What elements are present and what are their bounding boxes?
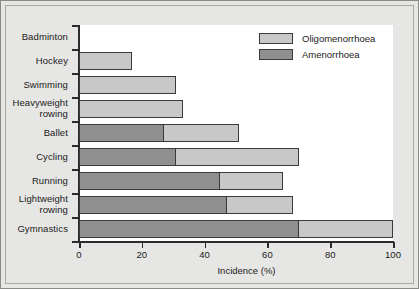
bar-segment-amenorrhoea bbox=[79, 148, 176, 166]
y-axis-tick bbox=[72, 145, 79, 147]
y-axis-label: Lightweightrowing bbox=[0, 194, 68, 215]
x-axis-tick-label: 100 bbox=[385, 249, 401, 260]
y-axis-label-line: Lightweight bbox=[0, 194, 68, 205]
bar-segment-oligomenorrhoea bbox=[298, 220, 393, 238]
legend-item-oligomenorrhoea: Oligomenorrhoea bbox=[259, 31, 375, 45]
legend-label-amenorrhoea: Amenorrhoea bbox=[302, 49, 360, 60]
bar-stack bbox=[79, 148, 299, 166]
bar-segment-amenorrhoea bbox=[79, 220, 299, 238]
chart-legend: Oligomenorrhoea Amenorrhoea bbox=[259, 31, 375, 63]
x-axis-tick-label: 20 bbox=[137, 249, 148, 260]
bar-stack bbox=[79, 124, 239, 142]
y-axis-label-line: Ballet bbox=[0, 128, 68, 139]
y-axis-label-line: Swimming bbox=[0, 80, 68, 91]
x-axis-tick-label: 40 bbox=[199, 249, 210, 260]
bar-stack bbox=[79, 172, 283, 190]
x-axis-tick bbox=[79, 242, 81, 248]
bar-stack bbox=[79, 52, 132, 70]
legend-swatch-oligomenorrhoea bbox=[259, 33, 293, 44]
bar-segment-amenorrhoea bbox=[79, 172, 220, 190]
y-axis-label-line: rowing bbox=[0, 205, 68, 216]
bar-segment-amenorrhoea bbox=[79, 196, 227, 214]
y-axis-tick bbox=[72, 25, 79, 27]
y-axis-label: Ballet bbox=[0, 128, 68, 139]
bar-segment-oligomenorrhoea bbox=[79, 100, 183, 118]
y-axis-label-line: Gymnastics bbox=[0, 224, 68, 235]
y-axis-label: Hockey bbox=[0, 56, 68, 67]
y-axis-label: Heavyweightrowing bbox=[0, 98, 68, 119]
x-axis-tick-label: 0 bbox=[76, 249, 81, 260]
y-axis-tick bbox=[72, 97, 79, 99]
y-axis-tick bbox=[72, 49, 79, 51]
y-axis-label: Running bbox=[0, 176, 68, 187]
y-axis-label-line: Heavyweight bbox=[0, 98, 68, 109]
legend-label-oligomenorrhoea: Oligomenorrhoea bbox=[302, 33, 375, 44]
y-axis-label-line: Badminton bbox=[0, 32, 68, 43]
x-axis-tick bbox=[205, 242, 207, 248]
y-axis-label-line: Hockey bbox=[0, 56, 68, 67]
legend-swatch-amenorrhoea bbox=[259, 49, 293, 60]
x-axis-tick bbox=[393, 242, 395, 248]
bar-segment-oligomenorrhoea bbox=[175, 148, 298, 166]
y-axis-label-line: rowing bbox=[0, 109, 68, 120]
x-axis-line bbox=[78, 241, 394, 243]
y-axis-tick bbox=[72, 169, 79, 171]
x-axis-tick bbox=[267, 242, 269, 248]
y-axis-tick bbox=[72, 73, 79, 75]
bar-stack bbox=[79, 100, 183, 118]
bar-stack bbox=[79, 76, 176, 94]
y-axis-label: Gymnastics bbox=[0, 224, 68, 235]
y-axis-label: Swimming bbox=[0, 80, 68, 91]
chart-figure: BadmintonHockeySwimmingHeavyweightrowing… bbox=[0, 0, 419, 289]
x-axis-tick-label: 80 bbox=[325, 249, 336, 260]
x-axis-tick bbox=[142, 242, 144, 248]
x-axis-tick-label: 60 bbox=[262, 249, 273, 260]
bar-stack bbox=[79, 220, 393, 238]
y-axis-label: Cycling bbox=[0, 152, 68, 163]
y-axis-tick bbox=[72, 217, 79, 219]
bar-segment-oligomenorrhoea bbox=[163, 124, 239, 142]
y-axis-tick bbox=[72, 241, 79, 243]
bar-segment-amenorrhoea bbox=[79, 124, 164, 142]
y-axis-label: Badminton bbox=[0, 32, 68, 43]
legend-item-amenorrhoea: Amenorrhoea bbox=[259, 47, 375, 61]
bar-segment-oligomenorrhoea bbox=[219, 172, 283, 190]
y-axis-tick bbox=[72, 193, 79, 195]
x-axis-title: Incidence (%) bbox=[1, 265, 419, 276]
y-axis-tick bbox=[72, 121, 79, 123]
bar-segment-oligomenorrhoea bbox=[79, 76, 176, 94]
y-axis-label-line: Cycling bbox=[0, 152, 68, 163]
bar-stack bbox=[79, 196, 293, 214]
y-axis-label-line: Running bbox=[0, 176, 68, 187]
x-axis-tick bbox=[330, 242, 332, 248]
bar-segment-oligomenorrhoea bbox=[79, 52, 132, 70]
bar-segment-oligomenorrhoea bbox=[226, 196, 293, 214]
